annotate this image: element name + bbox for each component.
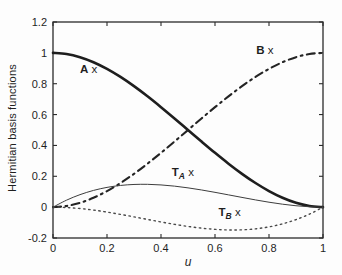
y-tick-label: 1.2: [32, 16, 47, 28]
curve-TA: [53, 184, 323, 207]
curve-B: [53, 53, 323, 207]
x-axis-label: u: [53, 255, 323, 269]
y-axis-label: Hermitian basis functions: [6, 28, 18, 228]
x-tick-label: 0.8: [261, 242, 276, 254]
y-tick-label: 1: [41, 47, 47, 59]
x-tick-label: 1: [320, 242, 326, 254]
x-tick-label: 0: [50, 242, 56, 254]
y-tick-label: 0.8: [32, 78, 47, 90]
y-tick-label: 0.4: [32, 139, 47, 151]
series-label-TA: TA x: [172, 166, 194, 181]
series-label-TB: TB x: [219, 206, 241, 221]
x-tick-label: 0.2: [99, 242, 114, 254]
curve-TB: [53, 207, 323, 230]
hermite-basis-figure: 00.20.40.60.81-0.200.20.40.60.811.2A xB …: [0, 0, 342, 275]
y-tick-label: 0.6: [32, 109, 47, 121]
chart-canvas: 00.20.40.60.81-0.200.20.40.60.811.2A xB …: [0, 0, 342, 275]
y-tick-label: 0: [41, 201, 47, 213]
y-tick-label: 0.2: [32, 170, 47, 182]
x-tick-label: 0.4: [153, 242, 168, 254]
x-tick-label: 0.6: [207, 242, 222, 254]
series-label-B: B x: [256, 44, 274, 56]
series-label-A: A x: [80, 63, 98, 75]
y-tick-label: -0.2: [28, 232, 47, 244]
